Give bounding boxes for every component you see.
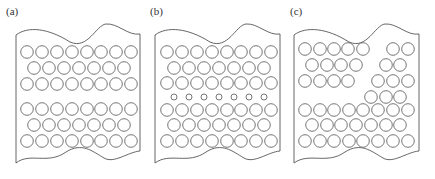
pore-circle <box>321 59 334 72</box>
pore-circle <box>343 104 356 117</box>
pore-circle <box>357 43 370 56</box>
pore-circle <box>299 104 312 117</box>
pore-circle <box>28 119 41 132</box>
pore-circle <box>402 43 415 56</box>
pore-circle <box>387 75 400 88</box>
pore-circle <box>191 104 204 117</box>
pore-circle <box>103 119 116 132</box>
pore-circle <box>394 59 407 72</box>
pore-circle <box>66 103 79 116</box>
pore-circle <box>235 135 248 148</box>
pore-circle <box>21 103 34 116</box>
pore-circle <box>206 135 219 148</box>
pore-circle <box>250 104 263 117</box>
pore-circle <box>328 135 341 148</box>
pore-circle <box>125 46 138 59</box>
pore-circle <box>299 75 312 88</box>
pore-circle <box>161 46 174 59</box>
pore-circle <box>206 46 219 59</box>
pore-circle <box>342 75 355 88</box>
pore-circle <box>81 135 94 148</box>
pore-circle <box>387 43 400 56</box>
pore-circle <box>402 104 415 117</box>
pore-arrangement-figure: (a) (b) (c) <box>0 0 435 179</box>
pore-circle <box>95 46 108 59</box>
pore-circle <box>380 119 393 132</box>
pore-circle <box>125 135 138 148</box>
pore-circle <box>314 104 327 117</box>
pore-circle <box>66 78 79 91</box>
pore-circle <box>58 119 71 132</box>
pore-circle <box>206 77 219 90</box>
panel-b-label: (b) <box>150 5 163 18</box>
pore-circle <box>191 135 204 148</box>
pore-circle <box>387 104 400 117</box>
pore-circle <box>43 62 56 75</box>
pore-circle <box>36 135 49 148</box>
pore-circle <box>250 77 263 90</box>
pore-circle <box>161 104 174 117</box>
panel-a: (a) <box>6 5 140 163</box>
pore-circle <box>221 77 234 90</box>
pore-circle <box>221 46 234 59</box>
pore-circle <box>402 135 415 148</box>
pore-circle <box>328 75 341 88</box>
panel-c: (c) <box>290 5 419 163</box>
pore-circle <box>21 46 34 59</box>
pore-circle <box>328 43 341 56</box>
pore-circle <box>335 59 348 72</box>
pore-circle <box>365 119 378 132</box>
pore-circle <box>191 46 204 59</box>
pore-circle <box>314 43 327 56</box>
small-pore-circle <box>231 94 237 100</box>
panel-a-label: (a) <box>6 5 19 18</box>
pore-circle <box>357 104 370 117</box>
pore-circle <box>213 119 226 132</box>
pore-circle <box>228 62 241 75</box>
pore-circle <box>314 135 327 148</box>
pore-circle <box>125 78 138 91</box>
pore-circle <box>350 119 363 132</box>
pore-circle <box>28 62 41 75</box>
pore-circle <box>51 103 64 116</box>
pore-circle <box>342 43 355 56</box>
pore-circle <box>81 46 94 59</box>
pore-circle <box>43 119 56 132</box>
pore-circle <box>183 62 196 75</box>
pore-circle <box>335 119 348 132</box>
pore-circle <box>372 75 385 88</box>
small-pore-circle <box>186 94 192 100</box>
pore-circle <box>198 119 211 132</box>
pore-circle <box>372 135 385 148</box>
pore-circle <box>176 77 189 90</box>
pore-circle <box>51 46 64 59</box>
pore-circle <box>66 135 79 148</box>
pore-circle <box>73 62 86 75</box>
pore-circle <box>221 104 234 117</box>
pore-circle <box>372 104 385 117</box>
pore-circle <box>365 91 378 104</box>
pore-circle <box>221 135 234 148</box>
pore-circle <box>36 78 49 91</box>
pore-circle <box>176 46 189 59</box>
pore-circle <box>58 62 71 75</box>
pore-circle <box>183 119 196 132</box>
pore-circle <box>81 103 94 116</box>
pore-circle <box>191 77 204 90</box>
pore-circle <box>265 77 278 90</box>
pore-circle <box>110 78 123 91</box>
pore-circle <box>36 46 49 59</box>
pore-circle <box>258 119 271 132</box>
pore-circle <box>168 62 181 75</box>
pore-circle <box>265 135 278 148</box>
pore-circle <box>343 135 356 148</box>
pore-circle <box>110 135 123 148</box>
pore-circle <box>103 62 116 75</box>
small-pore-circle <box>201 94 207 100</box>
pore-circle <box>258 62 271 75</box>
pore-circle <box>321 119 334 132</box>
pore-circle <box>387 135 400 148</box>
pore-circle <box>265 46 278 59</box>
small-pore-circle <box>261 94 267 100</box>
small-pore-circle <box>246 94 252 100</box>
